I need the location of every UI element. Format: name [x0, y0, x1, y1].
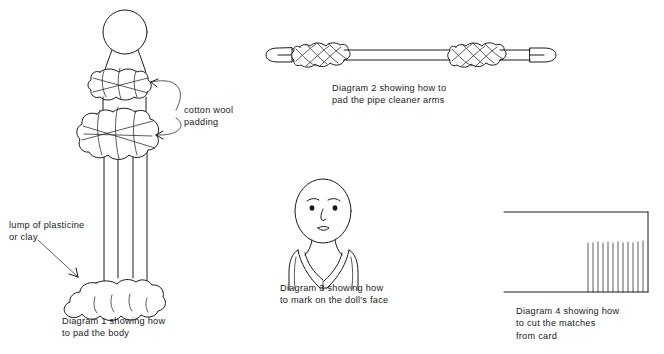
match-cut-lines [588, 241, 643, 292]
caption-diagram-3: Diagram 3 showing howto mark on the doll… [280, 282, 388, 307]
diagram-2-drawing [266, 43, 556, 67]
cotton-wool-label-line1: cotton wool [184, 105, 233, 115]
right-wool-wrap [448, 43, 506, 67]
plasticine-label-line1: lump of plasticine [9, 220, 84, 230]
left-wool-wrap [292, 43, 350, 67]
cotton-wool-arrow-lower [156, 118, 181, 139]
doll-head [103, 10, 147, 54]
diagram-4-drawing [504, 212, 648, 292]
lower-padding [77, 107, 159, 160]
caption-diagram-1: Diagram 1 showing howto pad the body [62, 315, 165, 340]
caption-diagram-2-line1: Diagram 2 showing how to [332, 83, 446, 93]
caption-diagram-2: Diagram 2 showing how topad the pipe cle… [332, 82, 446, 107]
left-eye [310, 205, 315, 211]
stick-legs [104, 142, 147, 283]
caption-diagram-4: Diagram 4 showing howto cut the matchesf… [516, 305, 619, 342]
cotton-wool-label-line2: padding [184, 117, 218, 127]
upper-padding [88, 68, 151, 100]
cotton-wool-label: cotton woolpadding [184, 104, 233, 128]
caption-diagram-2-line2: pad the pipe cleaner arms [332, 95, 444, 105]
plasticine-label: lump of plasticineor clay [9, 219, 84, 243]
caption-diagram-4-line3: from card [516, 331, 557, 341]
caption-diagram-4-line2: to cut the matches [516, 318, 596, 328]
caption-diagram-3-line2: to mark on the doll's face [280, 295, 388, 305]
caption-diagram-1-line2: to pad the body [62, 328, 129, 338]
plasticine-arrow [38, 240, 78, 277]
face-oval [295, 179, 351, 243]
cotton-wool-arrow-upper [151, 79, 180, 110]
caption-diagram-1-line1: Diagram 1 showing how [62, 316, 165, 326]
right-eye [333, 205, 338, 211]
caption-diagram-3-line1: Diagram 3 showing how [280, 283, 383, 293]
diagram-page: cotton woolpadding lump of plasticineor … [0, 0, 664, 354]
diagram-1-drawing [38, 10, 181, 321]
plasticine-label-line2: or clay [9, 232, 38, 242]
caption-diagram-4-line1: Diagram 4 showing how [516, 306, 619, 316]
diagram-3-drawing [289, 179, 358, 290]
